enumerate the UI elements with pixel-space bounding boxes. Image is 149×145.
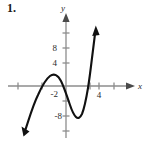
curve-right-arrowhead	[92, 26, 99, 37]
x-axis-label: x	[137, 81, 142, 91]
y-tick-label-4: 4	[53, 58, 58, 68]
y-axis-arrowhead	[62, 13, 69, 22]
x-tick-label-neg2: -2	[51, 89, 59, 99]
y-axis-label: y	[60, 3, 65, 13]
y-tick-label-neg8: -8	[55, 111, 63, 121]
x-tick-label-4: 4	[97, 90, 102, 100]
x-axis-arrowhead	[126, 82, 135, 89]
figure-container: 1. y x 8 4 -8	[0, 0, 149, 145]
graph-plot: y x 8 4 -8 -2 4	[0, 0, 149, 145]
y-tick-label-8: 8	[53, 43, 58, 53]
